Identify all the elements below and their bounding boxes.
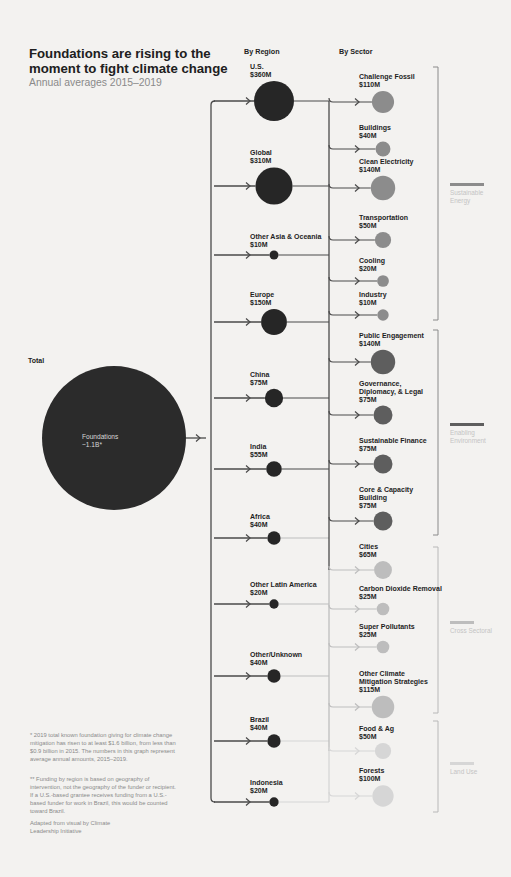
- sector-connector: [329, 411, 374, 415]
- footnote-total: * 2019 total known foundation giving for…: [30, 731, 180, 763]
- sector-node-circle: [372, 785, 393, 806]
- sector-node-circle: [372, 91, 394, 113]
- sector-connector: [329, 277, 377, 281]
- sector-node-circle: [377, 275, 389, 287]
- source-credit: Adapted from visual by Climate Leadershi…: [30, 819, 140, 835]
- legend-swatch: [450, 183, 484, 186]
- sector-label: Industry$10M: [359, 291, 387, 307]
- region-value: $20M: [250, 787, 283, 795]
- sector-value: $75M: [359, 396, 439, 404]
- region-name: Africa: [250, 513, 270, 521]
- region-value: $40M: [250, 521, 270, 529]
- sector-node-circle: [371, 176, 395, 200]
- sector-name: Super Pollutants: [359, 623, 415, 631]
- sector-label: Other Climate Mitigation Strategies$115M: [359, 670, 439, 694]
- region-name: Global: [250, 149, 272, 157]
- region-node-circle: [266, 461, 282, 477]
- sector-value: $75M: [359, 502, 439, 510]
- region-node-circle: [265, 389, 283, 407]
- region-label: Other Latin America$20M: [250, 581, 317, 597]
- sector-connector: [329, 311, 377, 315]
- region-node-circle: [270, 251, 279, 260]
- sector-node-circle: [374, 512, 393, 531]
- region-rail: [211, 101, 215, 802]
- sector-name: Sustainable Finance: [359, 437, 427, 445]
- sector-node-circle: [377, 309, 388, 320]
- sector-value: $20M: [359, 265, 385, 273]
- total-node-value: ~1.1B*: [82, 441, 118, 449]
- sector-name: Clean Electricity: [359, 158, 413, 166]
- sector-connector: [329, 145, 376, 149]
- sector-label: Cities$65M: [359, 543, 378, 559]
- sector-name: Challenge Fossil: [359, 73, 415, 81]
- legend-label: Cross Sectoral: [450, 627, 500, 635]
- sector-name: Industry: [359, 291, 387, 299]
- sector-name: Public Engagement: [359, 332, 424, 340]
- sector-connector: [329, 236, 375, 240]
- region-node-circle: [255, 167, 292, 204]
- region-node-circle: [267, 669, 280, 682]
- sector-connector: [329, 460, 374, 464]
- region-name: Other Latin America: [250, 581, 317, 589]
- sector-value: $140M: [359, 340, 424, 348]
- sector-value: $25M: [359, 593, 442, 601]
- sector-connector: [329, 643, 377, 647]
- sector-node-circle: [377, 641, 390, 654]
- sector-connector: [329, 184, 371, 188]
- sector-connector: [329, 566, 374, 570]
- sector-connector: [329, 98, 372, 102]
- sector-name: Transportation: [359, 214, 408, 222]
- region-name: India: [250, 443, 268, 451]
- region-node-circle: [267, 531, 280, 544]
- region-node-circle: [254, 81, 294, 121]
- sector-label: Public Engagement$140M: [359, 332, 424, 348]
- sector-node-circle: [375, 743, 391, 759]
- region-label: Other Asia & Oceania$10M: [250, 233, 321, 249]
- sector-label: Super Pollutants$25M: [359, 623, 415, 639]
- sector-connector: [329, 703, 372, 707]
- sector-name: Buildings: [359, 124, 391, 132]
- group-bracket: [433, 67, 438, 320]
- legend-swatch: [450, 762, 474, 765]
- region-label: China$75M: [250, 371, 269, 387]
- region-value: $360M: [250, 71, 271, 79]
- region-label: Global$310M: [250, 149, 272, 165]
- region-label: India$55M: [250, 443, 268, 459]
- region-label: U.S.$360M: [250, 63, 271, 79]
- sector-label: Governance, Diplomacy, & Legal$75M: [359, 380, 439, 404]
- sector-name: Governance, Diplomacy, & Legal: [359, 380, 439, 396]
- sector-value: $110M: [359, 81, 415, 89]
- sector-node-circle: [374, 406, 393, 425]
- group-bracket: [433, 721, 438, 812]
- sector-value: $40M: [359, 132, 391, 140]
- region-value: $310M: [250, 157, 272, 165]
- sector-node-circle: [374, 455, 393, 474]
- sector-node-circle: [377, 603, 390, 616]
- region-name: Other/Unknown: [250, 651, 302, 659]
- sector-value: $100M: [359, 775, 384, 783]
- total-node-label: Foundations ~1.1B*: [82, 433, 118, 449]
- region-node-circle: [261, 309, 287, 335]
- sector-value: $65M: [359, 551, 378, 559]
- region-label: Brazil$40M: [250, 716, 269, 732]
- sector-value: $115M: [359, 686, 439, 694]
- legend-item: Sustainable Energy: [450, 183, 500, 205]
- sector-node-circle: [372, 696, 395, 719]
- sector-connector: [329, 517, 374, 521]
- sector-name: Food & Ag: [359, 725, 394, 733]
- legend-label: Land Use: [450, 768, 500, 776]
- sector-connector: [329, 747, 375, 751]
- region-value: $40M: [250, 724, 269, 732]
- region-value: $10M: [250, 241, 321, 249]
- region-name: Brazil: [250, 716, 269, 724]
- sector-name: Other Climate Mitigation Strategies: [359, 670, 439, 686]
- region-label: Other/Unknown$40M: [250, 651, 302, 667]
- sector-label: Challenge Fossil$110M: [359, 73, 415, 89]
- region-name: Indonesia: [250, 779, 283, 787]
- sector-label: Carbon Dioxide Removal$25M: [359, 585, 442, 601]
- region-node-circle: [269, 599, 278, 608]
- sector-node-circle: [371, 350, 395, 374]
- sector-label: Cooling$20M: [359, 257, 385, 273]
- region-node-circle: [269, 797, 278, 806]
- sector-node-circle: [374, 561, 392, 579]
